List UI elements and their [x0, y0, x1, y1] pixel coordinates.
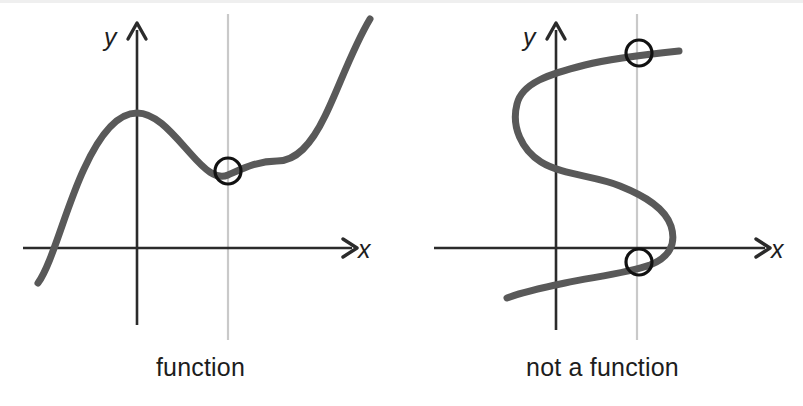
y-axis-label-right: y [521, 23, 537, 51]
curve-left [38, 19, 370, 283]
caption-not-a-function: not a function [402, 353, 803, 382]
y-axis-left [128, 23, 146, 325]
panel-left: x y [23, 14, 372, 340]
x-axis-right [434, 239, 770, 257]
caption-function: function [0, 353, 401, 382]
panel-right: x y [434, 14, 785, 340]
function-vertical-line-test-figure: x y x y [0, 0, 803, 406]
x-axis-label-right: x [770, 235, 785, 263]
x-axis-label-left: x [357, 235, 372, 263]
x-axis-left [23, 239, 357, 257]
y-axis-label-left: y [102, 23, 118, 51]
